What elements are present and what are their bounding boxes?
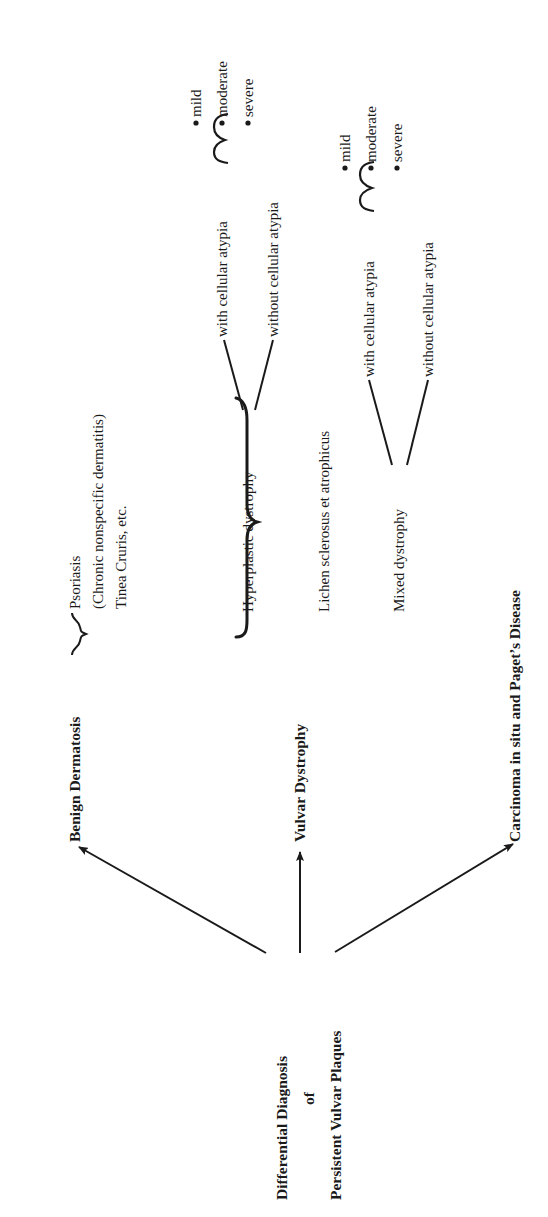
hyperplastic-grade-bullets — [193, 120, 250, 125]
mixed-grade-bullets — [342, 165, 399, 170]
benign-items-brace-icon — [72, 613, 86, 655]
root-arrows — [79, 844, 513, 953]
hyperplastic-fork — [224, 340, 273, 410]
diagram-canvas: Differential Diagnosis of Persistent Vul… — [0, 0, 548, 1217]
mixed-fork — [369, 380, 428, 465]
arrow-to-carcinoma — [335, 844, 513, 952]
arrow-to-benign-dermatosis — [79, 847, 266, 953]
